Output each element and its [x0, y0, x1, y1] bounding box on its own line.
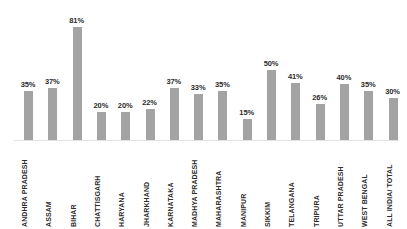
- bar-value-label: 35%: [15, 80, 41, 89]
- category-column: WEST BENGAL: [356, 141, 380, 229]
- category-axis-labels: ANDHRA PRADESHASSAMBIHARCHATTISGARHHARYA…: [0, 141, 407, 229]
- bar-value-label: 50%: [258, 59, 284, 68]
- bar-value-label: 15%: [234, 108, 260, 117]
- category-label: HARYANA: [118, 192, 125, 227]
- bar-column: 35%: [356, 0, 380, 141]
- category-label: BIHAR: [70, 204, 77, 227]
- bar-value-label: 37%: [161, 77, 187, 86]
- bar-column: 81%: [65, 0, 89, 141]
- bar-value-label: 33%: [185, 83, 211, 92]
- bar: [48, 88, 57, 140]
- bar: [389, 98, 398, 140]
- bar-column: 37%: [40, 0, 64, 141]
- bar: [194, 94, 203, 140]
- category-column: ALL INDIA/ TOTAL: [381, 141, 405, 229]
- bar-column: 35%: [16, 0, 40, 141]
- category-label: ASSAM: [45, 201, 52, 227]
- bar: [24, 91, 33, 140]
- category-column: MANIPUR: [235, 141, 259, 229]
- category-column: ANDHRA PRADESH: [16, 141, 40, 229]
- category-column: MADHYA PRADESH: [186, 141, 210, 229]
- bar-value-label: 81%: [64, 16, 90, 25]
- bar: [364, 91, 373, 140]
- bar-value-label: 20%: [112, 101, 138, 110]
- bar-column: 15%: [235, 0, 259, 141]
- bar: [121, 112, 130, 140]
- category-label: ANDHRA PRADESH: [21, 159, 28, 227]
- bar-column: 35%: [210, 0, 234, 141]
- category-label: MANIPUR: [240, 194, 247, 227]
- category-label: SIKKIM: [264, 202, 271, 227]
- bar: [340, 84, 349, 140]
- bar-value-label: 37%: [39, 77, 65, 86]
- bar-value-label: 26%: [307, 93, 333, 102]
- bar: [97, 112, 106, 140]
- bar-column: 20%: [89, 0, 113, 141]
- category-column: MAHARASHTRA: [210, 141, 234, 229]
- bar: [316, 104, 325, 140]
- category-column: CHATTISGARH: [89, 141, 113, 229]
- category-label: UTTAR PRADESH: [337, 166, 344, 227]
- bar-value-label: 22%: [137, 98, 163, 107]
- bar: [218, 91, 227, 140]
- bar-value-label: 41%: [282, 72, 308, 81]
- category-column: UTTAR PRADESH: [332, 141, 356, 229]
- category-column: TELANGANA: [283, 141, 307, 229]
- bar-column: 37%: [162, 0, 186, 141]
- category-column: BIHAR: [65, 141, 89, 229]
- category-label: KARNATAKA: [167, 182, 174, 227]
- bar-column: 33%: [186, 0, 210, 141]
- category-label: TRIPURA: [313, 195, 320, 227]
- bar-column: 30%: [381, 0, 405, 141]
- bar-column: 40%: [332, 0, 356, 141]
- category-column: SIKKIM: [259, 141, 283, 229]
- category-column: TRIPURA: [308, 141, 332, 229]
- bar-value-label: 35%: [209, 80, 235, 89]
- bar-column: 26%: [308, 0, 332, 141]
- bar: [170, 88, 179, 140]
- category-column: HARYANA: [113, 141, 137, 229]
- category-label: CHATTISGARH: [94, 175, 101, 227]
- category-label: MADHYA PRADESH: [191, 160, 198, 227]
- category-column: KARNATAKA: [162, 141, 186, 229]
- category-label: ALL INDIA/ TOTAL: [386, 164, 393, 227]
- category-label: TELANGANA: [288, 182, 295, 227]
- bar-column: 50%: [259, 0, 283, 141]
- bar: [267, 70, 276, 140]
- bar: [146, 109, 155, 140]
- plot-area: 35%37%81%20%20%22%37%33%35%15%50%41%26%4…: [0, 0, 407, 141]
- bar-value-label: 40%: [331, 73, 357, 82]
- bar-column: 20%: [113, 0, 137, 141]
- bar-value-label: 35%: [355, 80, 381, 89]
- category-label: MAHARASHTRA: [215, 171, 222, 227]
- bar: [73, 27, 82, 140]
- bar-column: 41%: [283, 0, 307, 141]
- bar-value-label: 20%: [88, 101, 114, 110]
- category-label: JHARKHAND: [143, 182, 150, 227]
- category-column: ASSAM: [40, 141, 64, 229]
- bar-value-label: 30%: [380, 87, 406, 96]
- category-column: JHARKHAND: [138, 141, 162, 229]
- bar: [243, 119, 252, 140]
- category-label: WEST BENGAL: [361, 174, 368, 227]
- bar-chart: 35%37%81%20%20%22%37%33%35%15%50%41%26%4…: [0, 0, 407, 229]
- bar: [291, 83, 300, 140]
- bar-column: 22%: [138, 0, 162, 141]
